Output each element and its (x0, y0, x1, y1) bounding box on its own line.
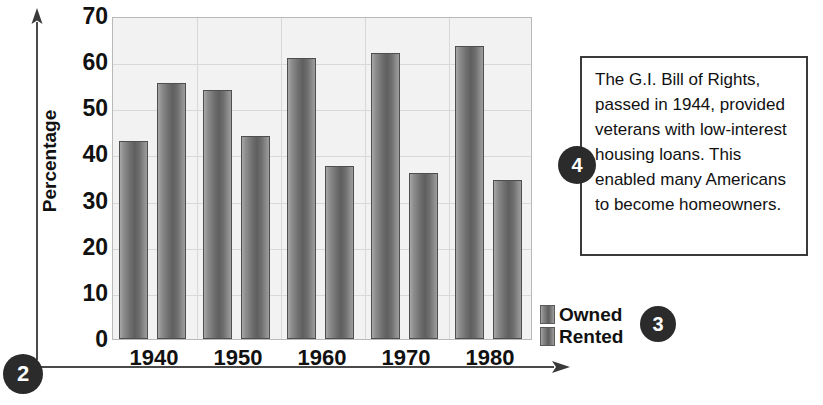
x-axis-tick-label: 1960 (280, 345, 364, 371)
y-axis-tick-label: 50 (62, 97, 108, 120)
x-axis-tick-label: 1950 (196, 345, 280, 371)
note-callout-box: The G.I. Bill of Rights, passed in 1944,… (580, 56, 808, 256)
legend-swatch-icon (540, 327, 555, 346)
y-axis-tick-label: 10 (62, 282, 108, 305)
x-axis-tick-label: 1970 (364, 345, 448, 371)
x-axis-tick-label: 1980 (448, 345, 532, 371)
note-text: The G.I. Bill of Rights, passed in 1944,… (595, 67, 794, 217)
legend-item-rented: Rented (540, 325, 623, 347)
legend-swatch-icon (540, 305, 555, 324)
bar-group (113, 18, 197, 339)
chart-figure: Percentage 706050403020100 1940195019601… (0, 0, 823, 405)
bar-rented-1960 (325, 166, 354, 339)
chart-legend: OwnedRented (540, 303, 623, 347)
x-axis-tick-labels: 19401950196019701980 (112, 345, 532, 377)
bar-owned-1980 (455, 46, 484, 339)
y-axis-tick-label: 70 (62, 5, 108, 28)
bar-owned-1950 (203, 90, 232, 339)
bar-rented-1980 (493, 180, 522, 339)
bar-rented-1970 (409, 173, 438, 339)
bar-group (197, 18, 281, 339)
y-axis-tick-label: 40 (62, 143, 108, 166)
y-axis-tick-label: 60 (62, 51, 108, 74)
y-axis-tick-labels: 706050403020100 (60, 0, 108, 360)
callout-badge-4: 4 (559, 147, 595, 183)
bar-group (281, 18, 365, 339)
y-axis-tick-label: 0 (62, 328, 108, 351)
bar-group (449, 18, 533, 339)
y-axis-tick-label: 20 (62, 236, 108, 259)
y-axis-title: Percentage (39, 81, 61, 241)
plot-area (112, 17, 532, 340)
bar-rented-1950 (241, 136, 270, 339)
legend-label: Rented (559, 327, 623, 346)
bar-owned-1970 (371, 53, 400, 339)
legend-label: Owned (559, 305, 622, 324)
bar-owned-1960 (287, 58, 316, 339)
y-axis-tick-label: 30 (62, 190, 108, 213)
bar-group (365, 18, 449, 339)
bar-rented-1940 (157, 83, 186, 339)
callout-badge-2: 2 (4, 355, 42, 393)
bar-owned-1940 (119, 141, 148, 339)
legend-item-owned: Owned (540, 303, 623, 325)
callout-badge-3: 3 (641, 307, 675, 341)
x-axis-tick-label: 1940 (112, 345, 196, 371)
